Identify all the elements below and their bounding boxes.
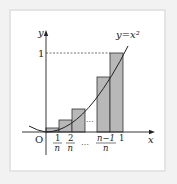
bar-3	[72, 109, 85, 132]
svg-text:n: n	[55, 143, 60, 153]
y-axis-arrow-icon	[44, 30, 48, 36]
x-tick-n-minus-1-over-n: n−1 n	[96, 133, 116, 153]
y-axis-label: y	[37, 27, 44, 38]
bar-2	[59, 120, 72, 132]
x-axis-label: x	[148, 134, 154, 145]
x-tick-one: 1	[119, 133, 124, 143]
svg-text:2: 2	[68, 133, 73, 143]
svg-text:n: n	[68, 143, 73, 153]
rectangles	[46, 53, 123, 132]
x-tick-2-over-n: 2 n	[66, 133, 75, 153]
svg-text:n−1: n−1	[97, 133, 115, 143]
svg-text:n: n	[103, 143, 108, 153]
svg-text:1: 1	[55, 133, 60, 143]
middle-ellipsis: ···	[86, 117, 94, 126]
bar-n-1	[97, 77, 110, 132]
curve-label: y=x²	[115, 29, 140, 40]
origin-label: O	[35, 134, 43, 145]
x-tick-1-over-n: 1 n	[53, 133, 62, 153]
y-tick-one: 1	[38, 48, 44, 59]
x-tick-ellipsis: …	[81, 138, 89, 147]
riemann-sum-diagram: y y=x² 1 ··· O x 1 n 2 n … n−1 n 1	[0, 0, 177, 184]
bar-n	[110, 53, 123, 132]
